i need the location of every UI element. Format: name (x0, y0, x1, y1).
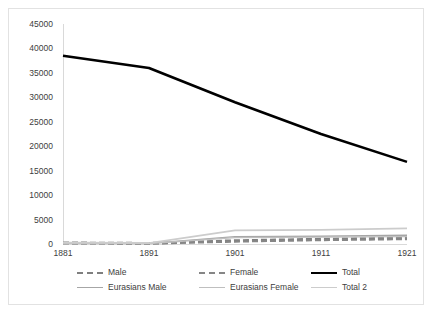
legend-label: Total (342, 268, 360, 277)
y-tick-label: 40000 (9, 44, 53, 53)
x-axis-tick-labels: 18811891190119111921 (63, 248, 407, 264)
legend-item-total[interactable]: Total (311, 268, 360, 277)
legend-row: MaleFemaleTotal (49, 265, 389, 280)
x-tick-label: 1891 (129, 248, 169, 258)
legend-label: Eurasians Female (230, 283, 299, 292)
y-tick-label: 35000 (9, 69, 53, 78)
legend-label: Female (230, 268, 258, 277)
legend-label: Male (108, 268, 126, 277)
legend-item-total-2[interactable]: Total 2 (311, 283, 367, 292)
series-line-total (63, 56, 407, 162)
legend-key-swatch (311, 272, 337, 274)
legend-key-swatch (199, 287, 225, 288)
y-tick-label: 45000 (9, 20, 53, 29)
legend-key-swatch (199, 272, 225, 274)
y-tick-label: 15000 (9, 166, 53, 175)
y-tick-label: 0 (9, 240, 53, 249)
y-tick-label: 10000 (9, 191, 53, 200)
x-tick-label: 1921 (387, 248, 427, 258)
y-tick-label: 20000 (9, 142, 53, 151)
legend-label: Eurasians Male (108, 283, 167, 292)
x-tick-label: 1881 (43, 248, 83, 258)
y-tick-label: 25000 (9, 118, 53, 127)
legend-item-female[interactable]: Female (199, 268, 258, 277)
series-paths (63, 24, 407, 244)
legend-key-swatch (311, 287, 337, 288)
chart-figure: 0500010000150002000025000300003500040000… (8, 8, 424, 305)
legend-key-swatch (77, 272, 103, 274)
chart-legend: MaleFemaleTotalEurasians MaleEurasians F… (49, 265, 389, 295)
y-tick-label: 5000 (9, 215, 53, 224)
legend-item-male[interactable]: Male (77, 268, 126, 277)
y-axis-tick-labels: 0500010000150002000025000300003500040000… (9, 24, 59, 244)
legend-item-eurasians-female[interactable]: Eurasians Female (199, 283, 299, 292)
x-tick-label: 1911 (301, 248, 341, 258)
x-axis-line (63, 244, 407, 245)
plot-area (63, 24, 407, 244)
y-tick-label: 30000 (9, 93, 53, 102)
legend-item-eurasians-male[interactable]: Eurasians Male (77, 283, 167, 292)
legend-row: Eurasians MaleEurasians FemaleTotal 2 (49, 280, 389, 295)
legend-key-swatch (77, 287, 103, 288)
legend-label: Total 2 (342, 283, 367, 292)
x-tick-label: 1901 (215, 248, 255, 258)
